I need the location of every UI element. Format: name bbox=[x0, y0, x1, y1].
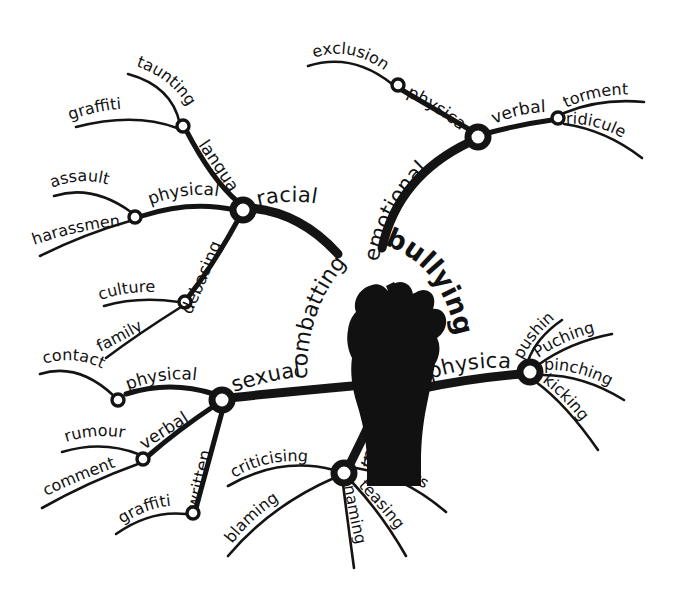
node-verbal-bottom[interactable] bbox=[334, 463, 354, 483]
node-sexual[interactable] bbox=[212, 390, 232, 410]
node-racial[interactable] bbox=[233, 200, 253, 220]
branch-racial[interactable]: racial language taunting graffiti bbox=[0, 0, 338, 358]
node-physical-emotional[interactable] bbox=[392, 79, 404, 91]
branch-line-contact bbox=[40, 371, 114, 396]
label-racial: racial bbox=[254, 183, 319, 211]
label-ridicule: ridicule bbox=[566, 109, 629, 142]
label-torment: torment bbox=[560, 79, 628, 111]
label-blaming: blaming bbox=[220, 488, 281, 547]
label-harassment: harassment bbox=[0, 0, 121, 249]
label-assault: assault bbox=[47, 166, 112, 192]
label-rumour: rumour bbox=[62, 421, 127, 446]
branch-line-assault bbox=[54, 192, 131, 212]
label-criticising: criticising bbox=[227, 446, 309, 481]
node-verbal-emotional[interactable] bbox=[552, 112, 564, 124]
center-verb-combatting: combatting bbox=[287, 250, 351, 379]
node-physical-right[interactable] bbox=[520, 362, 540, 382]
branch-line-physical-racial bbox=[142, 206, 236, 216]
branch-line-racial bbox=[250, 208, 338, 254]
node-verbal-sexual[interactable] bbox=[137, 453, 149, 465]
label-contact: contact bbox=[40, 345, 108, 372]
node-language[interactable] bbox=[177, 120, 189, 132]
mind-map-diagram: racial language taunting graffiti bbox=[0, 0, 679, 599]
branch-line-culture bbox=[104, 300, 179, 306]
branch-line-graffiti-top bbox=[76, 120, 177, 128]
mind-map-canvas: racial language taunting graffiti bbox=[0, 0, 679, 599]
label-written: written bbox=[182, 448, 215, 511]
label-debasing: debasing bbox=[176, 238, 225, 317]
node-emotional[interactable] bbox=[468, 127, 488, 147]
label-graffiti-bottom: graffiti bbox=[114, 491, 171, 527]
node-physical-racial[interactable] bbox=[129, 211, 141, 223]
label-exclusion: exclusion bbox=[310, 39, 393, 74]
branch-line-rumour bbox=[62, 446, 138, 454]
node-physical-sexual[interactable] bbox=[112, 394, 124, 406]
